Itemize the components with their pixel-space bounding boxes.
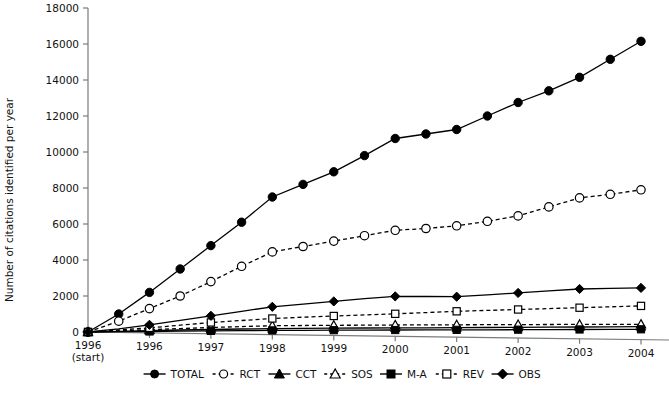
data-point bbox=[545, 87, 553, 95]
y-tick-label: 12000 bbox=[46, 110, 79, 122]
y-tick-label: 4000 bbox=[52, 254, 79, 266]
data-point bbox=[115, 317, 123, 325]
x-tick-label: 2001 bbox=[443, 344, 470, 356]
data-point bbox=[330, 312, 337, 319]
data-point bbox=[637, 186, 645, 194]
data-point bbox=[575, 284, 584, 293]
y-tick-label: 0 bbox=[72, 326, 79, 338]
y-tick-label: 2000 bbox=[52, 290, 79, 302]
data-point bbox=[514, 212, 522, 220]
data-point bbox=[269, 315, 276, 322]
legend-label: OBS bbox=[519, 368, 541, 380]
legend-item-obs[interactable]: OBS bbox=[492, 368, 541, 380]
x-tick-label: 2004 bbox=[628, 347, 655, 359]
legend-item-rct[interactable]: RCT bbox=[213, 368, 261, 380]
x-tick-label: 1999 bbox=[320, 342, 347, 354]
y-tick-label: 8000 bbox=[52, 182, 79, 194]
chart-legend: TOTALRCTCCTSOSM-AREVOBS bbox=[144, 368, 541, 380]
data-point bbox=[453, 308, 460, 315]
data-point bbox=[145, 304, 153, 312]
legend-label: RCT bbox=[240, 368, 261, 380]
legend-item-m-a[interactable]: M-A bbox=[380, 368, 428, 380]
data-point bbox=[391, 134, 399, 142]
data-point bbox=[299, 242, 307, 250]
data-point bbox=[606, 55, 614, 63]
data-point bbox=[392, 310, 399, 317]
data-point bbox=[360, 232, 368, 240]
data-point bbox=[606, 190, 614, 198]
data-point bbox=[452, 125, 460, 133]
series-rct bbox=[84, 186, 645, 337]
legend-item-total[interactable]: TOTAL bbox=[144, 368, 204, 380]
x-tick-label: 1997 bbox=[198, 341, 225, 353]
data-point bbox=[483, 112, 491, 120]
x-tick-label: 1996 bbox=[136, 340, 163, 352]
data-point bbox=[330, 327, 337, 334]
data-point bbox=[391, 226, 399, 234]
data-point bbox=[637, 302, 644, 309]
y-tick-label: 6000 bbox=[52, 218, 79, 230]
legend-item-sos[interactable]: SOS bbox=[324, 368, 373, 380]
data-point bbox=[330, 168, 338, 176]
legend-label: SOS bbox=[351, 368, 373, 380]
data-point bbox=[422, 224, 430, 232]
data-point bbox=[515, 306, 522, 313]
data-point bbox=[453, 326, 460, 333]
y-axis-title: Number of citations identified per year bbox=[3, 97, 15, 302]
data-point bbox=[268, 302, 277, 311]
data-point bbox=[514, 98, 522, 106]
y-tick-label: 10000 bbox=[46, 146, 79, 158]
x-tick-label: 2000 bbox=[382, 343, 409, 355]
data-point bbox=[452, 292, 461, 301]
data-point bbox=[268, 193, 276, 201]
data-point bbox=[637, 326, 644, 333]
data-point bbox=[391, 292, 400, 301]
x-axis: 1996(start)19961997199819992000200120022… bbox=[72, 332, 669, 363]
data-point bbox=[360, 151, 368, 159]
data-point bbox=[452, 222, 460, 230]
data-point bbox=[483, 217, 491, 225]
x-tick-label: 2003 bbox=[566, 346, 593, 358]
data-point bbox=[636, 283, 645, 292]
legend-label: M-A bbox=[407, 368, 428, 380]
citations-line-chart: 0200040006000800010000120001400016000180… bbox=[0, 0, 669, 394]
data-point bbox=[176, 265, 184, 273]
legend-marker bbox=[151, 370, 159, 378]
data-point bbox=[330, 237, 338, 245]
data-point bbox=[329, 297, 338, 306]
y-tick-label: 18000 bbox=[46, 2, 79, 14]
legend-label: CCT bbox=[295, 368, 317, 380]
data-point bbox=[576, 326, 583, 333]
series-line bbox=[88, 190, 641, 332]
data-point bbox=[575, 194, 583, 202]
data-point bbox=[575, 73, 583, 81]
data-point bbox=[576, 304, 583, 311]
legend-item-cct[interactable]: CCT bbox=[268, 368, 317, 380]
x-tick-label: 1996 bbox=[75, 339, 102, 351]
data-point bbox=[268, 248, 276, 256]
legend-marker bbox=[443, 370, 451, 378]
legend-marker bbox=[498, 369, 508, 379]
chart-canvas: 0200040006000800010000120001400016000180… bbox=[0, 0, 669, 394]
series-line bbox=[88, 41, 641, 332]
y-axis: 0200040006000800010000120001400016000180… bbox=[46, 2, 88, 338]
data-point bbox=[176, 292, 184, 300]
legend-marker bbox=[387, 370, 395, 378]
data-point bbox=[514, 288, 523, 297]
data-point bbox=[637, 37, 645, 45]
series-layer bbox=[83, 37, 645, 337]
data-point bbox=[145, 288, 153, 296]
series-total bbox=[84, 37, 645, 336]
legend-label: REV bbox=[463, 368, 485, 380]
x-tick-sublabel: (start) bbox=[72, 351, 105, 363]
data-point bbox=[207, 327, 214, 334]
legend-item-rev[interactable]: REV bbox=[436, 368, 485, 380]
data-point bbox=[237, 218, 245, 226]
y-tick-label: 14000 bbox=[46, 74, 79, 86]
data-point bbox=[422, 130, 430, 138]
data-point bbox=[237, 262, 245, 270]
data-point bbox=[299, 180, 307, 188]
legend-label: TOTAL bbox=[170, 368, 204, 380]
data-point bbox=[207, 241, 215, 249]
legend-marker bbox=[220, 370, 228, 378]
